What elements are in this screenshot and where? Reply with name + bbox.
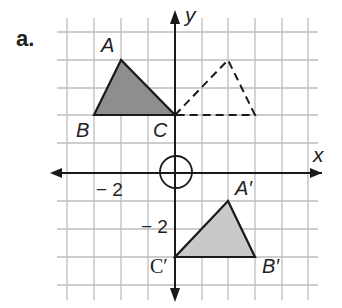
vertex-label-a: A [101, 35, 114, 55]
coordinate-plane [0, 0, 342, 308]
x-tick-label-neg2: − 2 [96, 180, 123, 199]
x-axis-arrow-right-icon [310, 168, 322, 178]
y-axis-arrow-down-icon [170, 288, 180, 302]
y-axis-label: y [185, 4, 196, 25]
y-axis-arrow-up-icon [170, 10, 180, 24]
vertex-label-c: C [153, 120, 167, 140]
part-label: a. [16, 26, 34, 52]
vertex-label-a-prime: A′ [235, 178, 252, 198]
vertex-label-b: B [76, 120, 89, 140]
x-axis-label: x [313, 144, 324, 165]
coordinate-grid-figure: a. y x − 2 − 2 A B C A′ B′ C′ [0, 0, 342, 308]
y-tick-label-neg2: − 2 [141, 217, 168, 236]
vertex-label-c-prime: C′ [150, 256, 168, 276]
x-axis-arrow-left-icon [50, 168, 62, 178]
vertex-label-b-prime: B′ [262, 256, 279, 276]
